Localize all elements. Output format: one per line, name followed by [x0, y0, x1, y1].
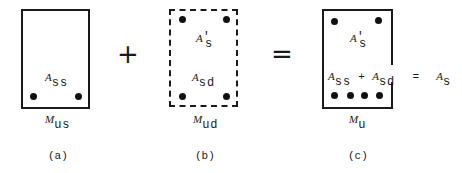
rebar-bottom-1-c	[331, 92, 338, 99]
compression-steel-label-c: A′s	[350, 33, 367, 45]
rebar-top-right-c	[375, 17, 382, 24]
rebar-top-left-b	[179, 16, 186, 23]
caption-b: (b)	[195, 150, 215, 162]
rebar-bottom-4-c	[376, 92, 383, 99]
rebar-top-left-c	[331, 18, 338, 25]
moment-label-mu: Mu	[349, 114, 366, 126]
rebar-bottom-right-a	[75, 93, 82, 100]
caption-c: (c)	[348, 150, 368, 162]
caption-a: (a)	[48, 150, 68, 162]
section-c-right-edge-upper	[391, 9, 393, 65]
rebar-top-right-b	[223, 16, 230, 23]
section-c-top-edge	[322, 9, 393, 11]
moment-label-mud: Mud	[193, 114, 219, 126]
moment-label-mus: Mus	[45, 114, 71, 126]
rebar-bottom-2-c	[347, 92, 354, 99]
section-c-left-edge	[322, 9, 324, 109]
steel-sum-equation: Ass + Asd = As	[328, 71, 451, 83]
section-c-bottom-edge	[322, 107, 393, 109]
rebar-bottom-3-c	[361, 92, 368, 99]
compression-steel-label-b: A′s	[196, 33, 213, 45]
rebar-bottom-left-b	[179, 93, 186, 100]
rebar-bottom-left-a	[30, 93, 37, 100]
steel-area-label-asd: Asd	[192, 72, 215, 84]
equals-operator: =	[271, 41, 293, 67]
plus-operator: +	[117, 41, 139, 67]
steel-area-label-ass: Ass	[45, 72, 68, 84]
rebar-bottom-right-b	[223, 93, 230, 100]
